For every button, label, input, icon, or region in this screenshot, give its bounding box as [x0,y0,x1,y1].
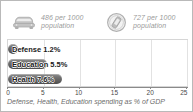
table-row[interactable]: Defense 1.2% [8,42,187,56]
stats-row: 486 per 1000 population 727 per 1000 pop… [6,7,189,37]
x-axis: 0510152025 [7,87,188,97]
table-row[interactable]: Education 5.5% [8,57,187,71]
x-tick-label-15: 15 [111,89,118,96]
gridline-25 [187,40,188,86]
x-tick-label-25: 25 [180,89,187,96]
x-axis-line [7,87,188,88]
stat-phones-text: 727 per 1000 population [133,14,175,31]
x-tick-label-5: 5 [41,89,45,96]
x-tick-label-10: 10 [75,89,82,96]
bar-label-health: Health 7.6% [8,75,54,84]
mobile-phone-icon [104,11,128,33]
bar-label-defense: Defense 1.2% [8,45,60,54]
table-row[interactable]: Health 7.6% [8,72,187,86]
x-tick-label-0: 0 [6,89,10,96]
x-tick-label-20: 20 [147,89,154,96]
country-stats-card: 486 per 1000 population 727 per 1000 pop… [0,0,193,112]
car-icon [12,11,36,33]
stat-vehicles-text: 486 per 1000 population [41,14,83,31]
stat-vehicles: 486 per 1000 population [6,7,101,37]
bar-label-education: Education 5.5% [8,60,67,69]
chart-bars: Defense 1.2% Education 5.5% Health 7.6% [8,40,187,86]
stat-phones: 727 per 1000 population [101,7,189,37]
bar-chart-plot-area: Defense 1.2% Education 5.5% Health 7.6% [7,39,188,87]
chart-caption: Defense, Health, Education spending as %… [7,98,188,105]
